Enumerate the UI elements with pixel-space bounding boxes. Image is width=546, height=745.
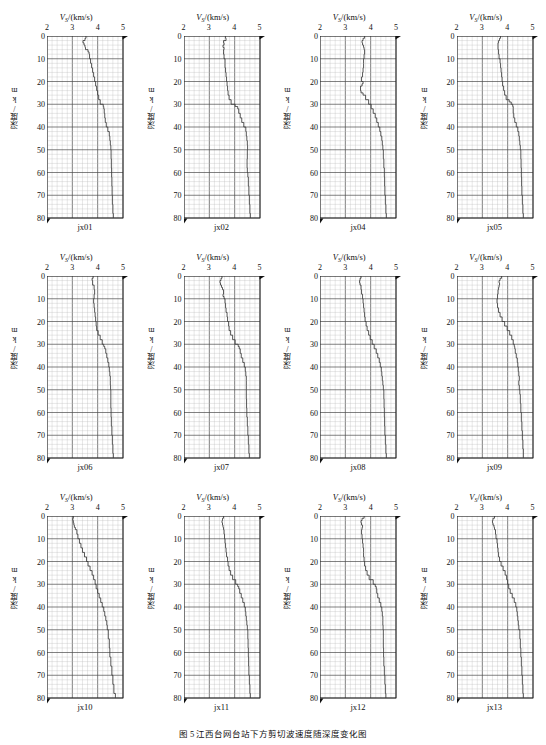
y-axis-label: 深度/km <box>146 566 157 609</box>
y-tick-label: 30 <box>174 580 182 589</box>
y-tick-labels: 01020304050607080 <box>26 36 45 218</box>
x-tick-labels: 2345 <box>184 23 260 34</box>
x-axis-title: VS/(km/s) <box>273 252 410 263</box>
y-tick-label: 0 <box>178 32 182 41</box>
y-tick-label: 40 <box>174 123 182 132</box>
y-axis-label: 深度/km <box>146 86 157 129</box>
x-tick-label: 5 <box>394 503 398 512</box>
y-tick-labels: 01020304050607080 <box>163 516 182 698</box>
x-tick-labels: 2345 <box>47 503 123 514</box>
plot-area <box>47 516 123 698</box>
y-tick-label: 60 <box>37 168 45 177</box>
y-tick-label: 80 <box>37 694 45 703</box>
y-tick-label: 70 <box>447 431 455 440</box>
y-tick-label: 50 <box>174 385 182 394</box>
x-axis-title-unit: /(km/s) <box>341 252 366 262</box>
x-tick-label: 3 <box>480 23 484 32</box>
y-tick-label: 40 <box>174 603 182 612</box>
y-tick-label: 30 <box>310 340 318 349</box>
y-tick-label: 50 <box>310 385 318 394</box>
y-tick-labels: 01020304050607080 <box>436 36 455 218</box>
y-tick-label: 40 <box>37 363 45 372</box>
y-tick-label: 40 <box>174 363 182 372</box>
y-tick-label: 10 <box>447 294 455 303</box>
y-tick-label: 60 <box>447 168 455 177</box>
x-axis-title-unit: /(km/s) <box>478 252 503 262</box>
y-tick-label: 0 <box>41 512 45 521</box>
y-tick-label: 10 <box>447 534 455 543</box>
profile-panel-jx13: VS/(km/s)234501020304050607080深度/kmjx13 <box>410 486 546 726</box>
x-tick-label: 3 <box>343 263 347 272</box>
x-tick-labels: 2345 <box>320 503 396 514</box>
y-tick-labels: 01020304050607080 <box>299 516 318 698</box>
x-tick-label: 2 <box>455 263 459 272</box>
x-tick-label: 5 <box>121 503 125 512</box>
x-tick-label: 4 <box>96 263 100 272</box>
plot-area <box>457 276 533 458</box>
y-axis-label: 深度/km <box>9 326 20 369</box>
x-tick-label: 5 <box>394 263 398 272</box>
profile-panel-jx12: VS/(km/s)234501020304050607080深度/kmjx12 <box>273 486 410 726</box>
y-tick-label: 0 <box>314 272 318 281</box>
panel-label-jx07: jx07 <box>184 462 260 472</box>
y-tick-label: 0 <box>178 272 182 281</box>
x-tick-label: 3 <box>343 503 347 512</box>
profile-panel-jx02: VS/(km/s)234501020304050607080深度/kmjx02 <box>137 6 274 246</box>
y-tick-label: 30 <box>447 340 455 349</box>
x-axis-title: VS/(km/s) <box>0 12 137 23</box>
x-tick-label: 4 <box>505 263 509 272</box>
x-tick-label: 2 <box>182 263 186 272</box>
y-tick-label: 50 <box>310 625 318 634</box>
plot-area <box>457 36 533 218</box>
x-tick-label: 4 <box>96 503 100 512</box>
profile-panel-jx06: VS/(km/s)234501020304050607080深度/kmjx06 <box>0 246 137 486</box>
profile-panel-jx01: VS/(km/s)234501020304050607080深度/kmjx01 <box>0 6 137 246</box>
y-axis-label: 深度/km <box>9 566 20 609</box>
y-tick-label: 20 <box>310 77 318 86</box>
x-axis-title-unit: /(km/s) <box>205 492 230 502</box>
plot-area <box>184 276 260 458</box>
x-tick-label: 2 <box>318 263 322 272</box>
y-tick-label: 50 <box>447 625 455 634</box>
x-axis-title: VS/(km/s) <box>410 12 546 23</box>
y-tick-label: 40 <box>447 363 455 372</box>
x-tick-label: 5 <box>531 263 535 272</box>
y-tick-label: 70 <box>310 191 318 200</box>
x-tick-label: 4 <box>369 263 373 272</box>
panel-grid: VS/(km/s)234501020304050607080深度/kmjx01V… <box>0 6 546 726</box>
x-tick-label: 3 <box>343 23 347 32</box>
panel-label-jx10: jx10 <box>47 702 123 712</box>
y-tick-label: 70 <box>37 431 45 440</box>
y-tick-label: 10 <box>174 54 182 63</box>
y-tick-label: 20 <box>37 317 45 326</box>
profile-panel-jx08: VS/(km/s)234501020304050607080深度/kmjx08 <box>273 246 410 486</box>
y-tick-label: 30 <box>37 340 45 349</box>
y-tick-label: 30 <box>174 100 182 109</box>
y-tick-label: 20 <box>310 317 318 326</box>
x-tick-label: 3 <box>480 263 484 272</box>
y-tick-label: 50 <box>447 145 455 154</box>
x-tick-label: 5 <box>531 23 535 32</box>
y-tick-label: 80 <box>447 694 455 703</box>
y-tick-labels: 01020304050607080 <box>436 516 455 698</box>
y-tick-label: 0 <box>451 512 455 521</box>
panel-row: VS/(km/s)234501020304050607080深度/kmjx10V… <box>0 486 546 726</box>
y-tick-label: 70 <box>174 431 182 440</box>
y-tick-label: 0 <box>41 272 45 281</box>
panel-row: VS/(km/s)234501020304050607080深度/kmjx01V… <box>0 6 546 246</box>
x-axis-title: VS/(km/s) <box>137 12 274 23</box>
x-tick-label: 2 <box>455 23 459 32</box>
x-axis-title-unit: /(km/s) <box>341 12 366 22</box>
profile-panel-jx09: VS/(km/s)234501020304050607080深度/kmjx09 <box>410 246 546 486</box>
y-tick-label: 60 <box>37 648 45 657</box>
x-axis-title: VS/(km/s) <box>137 492 274 503</box>
y-tick-label: 10 <box>37 534 45 543</box>
y-tick-label: 80 <box>310 454 318 463</box>
y-tick-label: 60 <box>310 168 318 177</box>
y-tick-label: 60 <box>174 408 182 417</box>
y-tick-labels: 01020304050607080 <box>299 276 318 458</box>
x-tick-label: 5 <box>121 263 125 272</box>
plot-area <box>184 516 260 698</box>
profile-panel-jx05: VS/(km/s)234501020304050607080深度/kmjx05 <box>410 6 546 246</box>
x-tick-label: 5 <box>258 263 262 272</box>
